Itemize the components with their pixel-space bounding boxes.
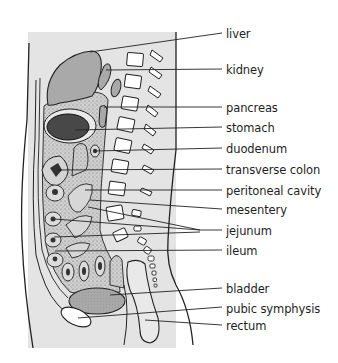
- label-peritoneal-cavity: peritoneal cavity: [226, 184, 321, 198]
- label-liver: liver: [226, 27, 251, 41]
- label-stomach: stomach: [226, 121, 275, 135]
- label-transverse-colon: transverse colon: [226, 163, 320, 177]
- label-ileum: ileum: [226, 244, 257, 258]
- label-jejunum: jejunum: [226, 224, 272, 238]
- stomach: [47, 114, 89, 140]
- label-pancreas: pancreas: [226, 101, 278, 115]
- label-kidney: kidney: [226, 63, 264, 77]
- label-rectum: rectum: [226, 319, 266, 333]
- label-mesentery: mesentery: [226, 203, 287, 217]
- label-duodenum: duodenum: [226, 142, 287, 156]
- label-bladder: bladder: [226, 282, 269, 296]
- label-pubic-symphysis: pubic symphysis: [226, 302, 320, 316]
